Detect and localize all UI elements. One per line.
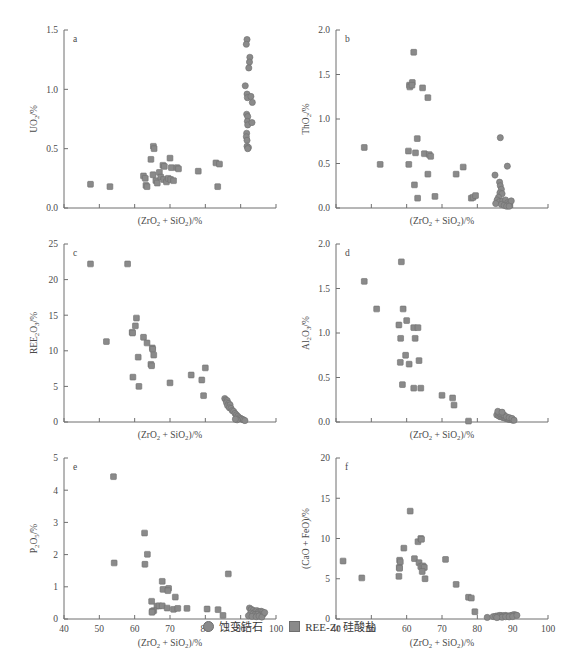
data-point-square [361,278,367,284]
y-tick-label: 20 [321,453,331,463]
y-axis-label: UO2/% [29,105,40,133]
data-point-square [398,335,404,341]
data-point-square [188,372,194,378]
data-point-square [451,402,457,408]
panel-letter-b: b [345,34,350,44]
data-point-circle [244,137,250,143]
y-tick-label: 10 [321,534,331,544]
figure-legend: 蚀变锆石 REE-Zr 硅酸盐 [0,618,579,646]
data-point-square [404,318,410,324]
square-marker-icon [289,621,300,632]
y-axis-label: Al2O3/% [301,316,312,350]
data-point-square [148,156,154,162]
data-point-circle [493,200,499,206]
data-point-square [195,168,201,174]
y-tick-label: 25 [49,239,59,249]
legend-label-ree-zr-silicate: REE-Zr 硅酸盐 [305,618,376,634]
data-point-square [201,393,207,399]
data-point-circle [262,609,268,615]
data-point-circle [506,203,512,209]
data-point-circle [242,417,248,423]
data-point-square [202,365,208,371]
data-point-square [215,607,221,613]
data-point-square [150,346,156,352]
y-tick-label: 10 [49,346,59,356]
series-ree-zr-silicate [88,261,209,399]
data-point-square [473,193,479,199]
y-tick-label: 1.0 [318,328,330,338]
data-point-square [416,358,422,364]
data-point-square [406,161,412,167]
y-tick-label: 4 [53,486,58,496]
data-point-square [88,261,94,267]
data-point-square [406,361,412,367]
y-tick-label: 1 [53,582,58,592]
series-ree-zr-silicate [361,49,478,201]
series-ree-zr-silicate [361,259,471,424]
data-point-square [374,306,380,312]
data-point-square [215,184,221,190]
y-tick-label: 15 [321,494,331,504]
data-point-square [453,171,459,177]
data-point-square [413,150,419,156]
data-point-square [450,395,456,401]
panel-d: 0.00.51.01.52.0d(ZrO2 + SiO2)/%Al2O3/% [290,232,562,452]
data-point-square [165,588,171,594]
data-point-square [361,145,367,151]
data-point-square [412,182,418,188]
data-point-square [169,165,175,171]
y-tick-label: 1.5 [46,25,58,35]
y-tick-label: 0.5 [318,159,330,169]
data-point-square [125,261,131,267]
y-tick-label: 0.5 [318,373,330,383]
data-point-circle [248,93,254,99]
data-point-square [397,565,403,571]
data-point-square [443,557,449,563]
series-altered-zircon [242,36,255,151]
data-point-square [466,418,472,424]
data-point-circle [497,135,503,141]
series-ree-zr-silicate [340,508,478,614]
data-point-circle [242,83,248,89]
data-point-square [377,161,383,167]
data-point-square [111,474,117,480]
data-point-square [401,545,407,551]
y-tick-label: 5 [325,574,330,584]
data-point-square [217,161,223,167]
data-point-square [398,259,404,265]
data-point-square [396,322,402,328]
x-axis-label: (ZrO2 + SiO2)/% [138,430,203,441]
legend-item-ree-zr-silicate: REE-Zr 硅酸盐 [289,618,376,634]
y-tick-label: 1.0 [318,114,330,124]
y-axis-label: (CaO + FeO)/% [301,508,312,569]
data-point-square [419,536,425,542]
data-point-circle [246,65,252,71]
data-point-square [340,558,346,564]
y-axis-label: ThO2/% [301,103,312,134]
data-point-square [142,175,148,181]
data-point-square [400,306,406,312]
x-axis-label: (ZrO2 + SiO2)/% [410,430,475,441]
data-point-square [425,95,431,101]
panel-letter-d: d [345,248,350,258]
data-point-circle [246,59,252,65]
data-point-square [411,49,417,55]
data-point-square [406,148,412,154]
plot-a: 0.00.51.01.5a(ZrO2 + SiO2)/%UO2/% [18,18,290,238]
data-point-square [412,335,418,341]
series-altered-zircon [492,135,514,210]
data-point-square [149,363,155,369]
data-point-square [167,155,173,161]
data-point-square [460,164,466,170]
y-tick-label: 0.0 [318,417,330,427]
data-point-square [144,551,150,557]
series-altered-zircon [494,408,518,423]
data-point-square [472,609,478,615]
data-point-square [144,184,150,190]
data-point-square [403,352,409,358]
y-tick-label: 1.5 [318,284,330,294]
data-point-square [88,181,94,187]
data-point-square [176,166,182,172]
data-point-circle [249,119,255,125]
plot-b: 0.00.51.01.52.0b(ZrO2 + SiO2)/%ThO2/% [290,18,562,238]
